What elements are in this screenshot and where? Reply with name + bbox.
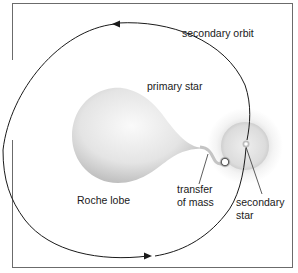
label-secondary-line2: star (236, 209, 254, 221)
label-roche-lobe: Roche lobe (77, 194, 130, 206)
label-secondary-line1: secondary (236, 196, 284, 208)
diagram-canvas (0, 0, 298, 273)
label-transfer-line1: transfer (177, 183, 213, 195)
orbit-arrow-bottom-icon (144, 253, 152, 260)
label-transfer-line2: of mass (177, 196, 214, 208)
orbit-arrow-top-icon (112, 21, 120, 28)
transfer-leader-line (199, 154, 208, 184)
label-secondary-orbit: secondary orbit (182, 27, 254, 39)
label-primary-star: primary star (147, 80, 202, 92)
primary-star-roche-lobe (72, 88, 205, 183)
